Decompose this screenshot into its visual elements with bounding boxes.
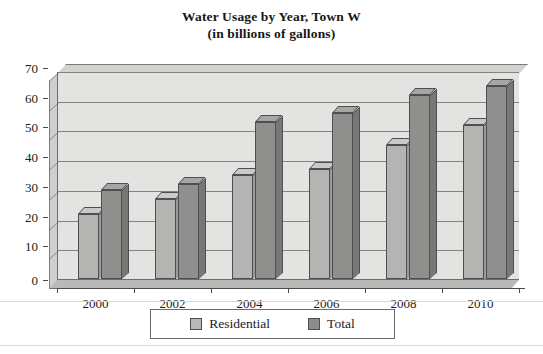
gridline-70 — [58, 72, 519, 73]
bar-residential-2010 — [463, 125, 484, 280]
x-axis-tick-4 — [365, 288, 366, 293]
x-axis-line — [57, 288, 525, 289]
bar-face — [101, 190, 122, 279]
bar-total-2010 — [486, 86, 507, 279]
legend-swatch-total-icon — [308, 318, 320, 330]
y-axis-tick-60 — [43, 98, 48, 99]
chart-title-block: Water Usage by Year, Town W (in billions… — [0, 8, 543, 42]
y-axis-label-20: 20 — [8, 211, 38, 224]
legend-swatch-residential-icon — [190, 318, 202, 330]
bar-side — [353, 106, 360, 279]
y-axis-label-10: 10 — [8, 240, 38, 253]
chart-canvas: 010203040506070 200020022004200620082010 — [0, 55, 543, 285]
x-axis-tick-1 — [134, 288, 135, 293]
bar-face — [409, 95, 430, 279]
y-axis-label-50: 50 — [8, 121, 38, 134]
bar-total-2000 — [101, 190, 122, 279]
bar-side — [430, 88, 437, 279]
chart-title: Water Usage by Year, Town W — [0, 8, 543, 25]
y-axis-tick-0 — [43, 280, 48, 281]
legend-item-residential: Residential — [190, 316, 270, 332]
x-axis-tick-3 — [288, 288, 289, 293]
bar-face — [332, 113, 353, 279]
x-axis-label-2010: 2010 — [451, 296, 511, 312]
bar-face — [463, 125, 484, 280]
bar-face — [78, 214, 99, 279]
x-axis-tick-5 — [442, 288, 443, 293]
bar-face — [486, 86, 507, 279]
y-axis-label-0: 0 — [8, 274, 38, 287]
bar-total-2004 — [255, 122, 276, 279]
gridline-40 — [58, 161, 519, 162]
gridline-50 — [58, 131, 519, 132]
y-axis-label-60: 60 — [8, 92, 38, 105]
chart-subtitle: (in billions of gallons) — [0, 25, 543, 42]
gridline-60 — [58, 102, 519, 103]
x-axis-label-2000: 2000 — [66, 296, 126, 312]
bar-residential-2008 — [386, 145, 407, 279]
page-scan-artifact-lower — [0, 345, 543, 346]
y-axis-tick-40 — [43, 157, 48, 158]
bar-total-2008 — [409, 95, 430, 279]
y-axis-tick-10 — [43, 246, 48, 247]
bar-side — [276, 115, 283, 279]
legend-label-total: Total — [327, 316, 355, 332]
page-scan-artifact — [0, 301, 543, 302]
legend-label-residential: Residential — [209, 316, 270, 332]
bar-face — [155, 199, 176, 279]
bar-side — [122, 184, 129, 279]
bar-residential-2004 — [232, 175, 253, 279]
bar-total-2002 — [178, 184, 199, 279]
y-axis-label-70: 70 — [8, 62, 38, 75]
x-axis-tick-0 — [57, 288, 58, 293]
bar-face — [386, 145, 407, 279]
y-axis-tick-20 — [43, 217, 48, 218]
chart-legend: Residential Total — [150, 309, 395, 339]
bar-side — [507, 80, 514, 279]
bar-total-2006 — [332, 113, 353, 279]
y-axis-label-30: 30 — [8, 181, 38, 194]
x-axis-tick-2 — [211, 288, 212, 293]
x-axis-tick-end — [519, 288, 520, 293]
y-axis-tick-70 — [43, 68, 48, 69]
y-axis-tick-50 — [43, 127, 48, 128]
bar-side — [199, 178, 206, 279]
bar-residential-2006 — [309, 169, 330, 279]
y-axis-label-40: 40 — [8, 151, 38, 164]
bar-face — [309, 169, 330, 279]
legend-item-total: Total — [308, 316, 355, 332]
bar-residential-2002 — [155, 199, 176, 279]
bar-face — [178, 184, 199, 279]
bar-face — [255, 122, 276, 279]
y-axis-tick-30 — [43, 187, 48, 188]
plot-area — [57, 72, 519, 280]
bar-residential-2000 — [78, 214, 99, 279]
bar-face — [232, 175, 253, 279]
